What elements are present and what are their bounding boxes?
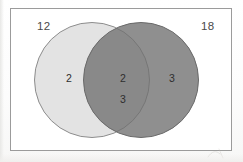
venn-diagram-figure: 12 18 2 2 3 3 — [0, 0, 243, 162]
region-count-intersection-top: 2 — [120, 73, 126, 84]
region-count-intersection-bottom: 3 — [120, 94, 126, 105]
set-left-total-label: 12 — [37, 21, 51, 32]
region-count-left-only: 2 — [66, 73, 72, 84]
venn-area: 12 18 2 2 3 3 — [11, 9, 231, 150]
page-edge-shadow-left — [0, 0, 4, 162]
set-right-total-label: 18 — [201, 21, 215, 32]
diagram-frame: 12 18 2 2 3 3 — [10, 8, 232, 151]
set-circle-right — [83, 22, 199, 138]
region-count-right-only: 3 — [169, 73, 175, 84]
page-edge-shadow-bottom — [0, 154, 243, 162]
